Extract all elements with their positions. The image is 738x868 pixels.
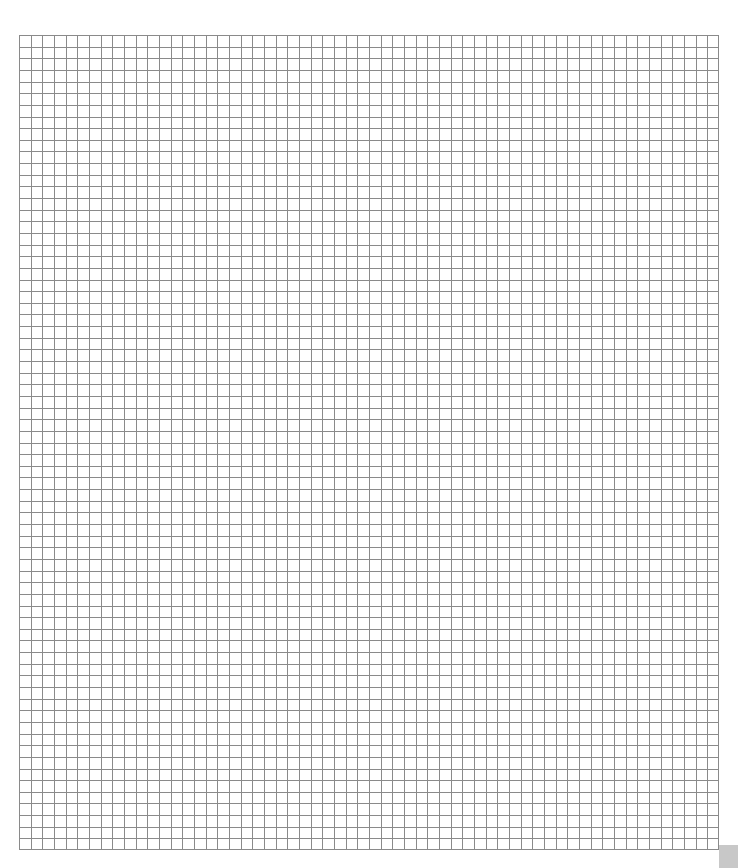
- graph-paper-grid: [19, 35, 719, 850]
- scrollbar-corner: [719, 845, 738, 868]
